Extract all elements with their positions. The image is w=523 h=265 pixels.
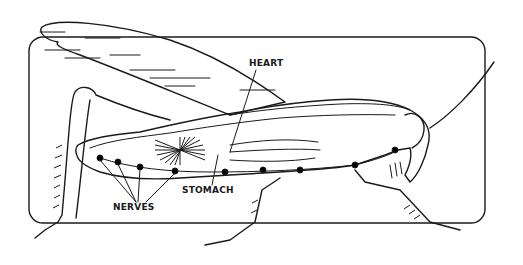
heart-cluster bbox=[155, 137, 205, 165]
nerves-label: NERVES bbox=[113, 202, 154, 212]
stomach-label: STOMACH bbox=[182, 185, 234, 195]
wing bbox=[41, 22, 285, 115]
stomach-leader bbox=[212, 155, 218, 185]
gut bbox=[230, 140, 320, 161]
heart-leader bbox=[230, 70, 256, 152]
heart-label: HEART bbox=[249, 58, 283, 68]
grasshopper-diagram bbox=[0, 0, 523, 265]
mouthparts bbox=[390, 162, 402, 178]
head bbox=[405, 113, 424, 148]
wing-veins bbox=[40, 32, 275, 90]
hind-leg-spines bbox=[53, 145, 62, 208]
leg-spines bbox=[251, 200, 420, 219]
